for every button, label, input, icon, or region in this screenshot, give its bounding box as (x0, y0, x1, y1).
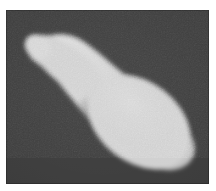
image-plate (6, 10, 209, 184)
blob-layer (6, 10, 209, 184)
blob-shape-svg (6, 10, 209, 184)
figure-root: Grayscale image of a light club-shaped b… (0, 0, 216, 191)
